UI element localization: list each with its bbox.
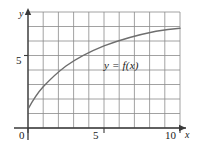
origin-label: 0 — [19, 130, 25, 141]
y-axis-arrowhead — [25, 8, 31, 15]
y-axis-tick-label-5: 5 — [16, 55, 22, 66]
x-axis-label: x — [185, 130, 189, 140]
x-axis-ticks — [28, 128, 180, 133]
curve-equation-label: y = f(x) — [104, 60, 139, 71]
x-axis-tick-label-5: 5 — [93, 130, 99, 141]
x-axis-tick-label-10: 10 — [165, 130, 176, 141]
y-axis-label: y — [19, 9, 23, 19]
graph-figure: y x 5 0 5 10 y = f(x) — [0, 0, 197, 151]
